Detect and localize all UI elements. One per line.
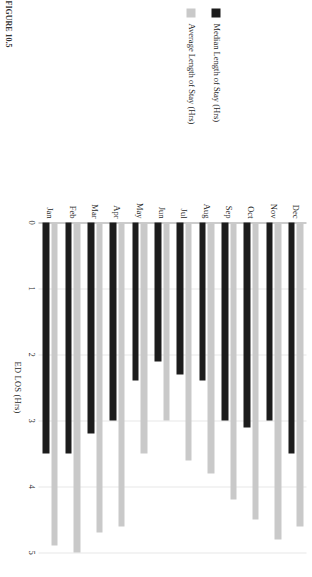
tick-label: 1: [26, 286, 36, 290]
category-label: Mar: [83, 196, 105, 222]
value-axis-title: ED LOS (Hrs): [12, 222, 22, 552]
category-label: Jan: [38, 196, 60, 222]
chart-figure: Median Length of Stay (Hrs) Average Leng…: [0, 0, 312, 577]
category-label: Dec: [284, 196, 306, 222]
category-label: Aug: [194, 196, 216, 222]
bar-group: [127, 222, 149, 552]
category-label: Nov: [261, 196, 283, 222]
bar-average: [230, 222, 237, 499]
tick-label: 2: [26, 352, 36, 356]
bar-average: [185, 222, 192, 460]
plot-area: JanFebMarAprMayJunJulAugSepOctNovDec 012…: [6, 196, 306, 568]
bar-group: [83, 222, 105, 552]
bar-group: [217, 222, 239, 552]
category-label: Feb: [60, 196, 82, 222]
bar-median: [42, 222, 49, 453]
bar-average: [207, 222, 214, 473]
bar-median: [65, 222, 72, 453]
bar-median: [199, 222, 206, 380]
category-label: Sep: [217, 196, 239, 222]
legend-item-median: Median Length of Stay (Hrs): [211, 8, 220, 158]
category-label: Jun: [150, 196, 172, 222]
legend-item-average: Average Length of Stay (Hrs): [186, 8, 195, 158]
bar-average: [140, 222, 147, 453]
rotated-figure-wrapper: Median Length of Stay (Hrs) Average Leng…: [0, 0, 312, 577]
chart-legend: Median Length of Stay (Hrs) Average Leng…: [170, 8, 220, 158]
bar-group: [150, 222, 172, 552]
bar-median: [221, 222, 228, 420]
bar-median: [109, 222, 116, 420]
bar-group: [38, 222, 60, 552]
bar-average: [51, 222, 58, 545]
bar-average: [118, 222, 125, 526]
bar-median: [154, 222, 161, 361]
category-label: Jul: [172, 196, 194, 222]
category-label: Oct: [239, 196, 261, 222]
bar-median: [288, 222, 295, 453]
tick-label: 3: [26, 418, 36, 422]
bar-average: [73, 222, 80, 552]
bar-average: [252, 222, 259, 519]
category-label: May: [127, 196, 149, 222]
bar-median: [176, 222, 183, 374]
tick-label: 5: [26, 550, 36, 554]
bar-group: [60, 222, 82, 552]
category-label: Apr: [105, 196, 127, 222]
bar-average: [163, 222, 170, 420]
bar-group: [172, 222, 194, 552]
bar-group: [284, 222, 306, 552]
bar-median: [243, 222, 250, 427]
legend-swatch-icon: [211, 8, 220, 17]
bar-average: [96, 222, 103, 532]
legend-swatch-icon: [186, 8, 195, 17]
figure-caption: FIGURE 10.5: [3, 0, 12, 47]
legend-label-median: Median Length of Stay (Hrs): [211, 23, 220, 122]
bar-group: [105, 222, 127, 552]
figure-page: Median Length of Stay (Hrs) Average Leng…: [0, 0, 312, 577]
bar-group: [194, 222, 216, 552]
bars-container: [38, 222, 306, 552]
tick-label: 4: [26, 484, 36, 488]
bar-median: [266, 222, 273, 420]
legend-label-average: Average Length of Stay (Hrs): [186, 23, 195, 124]
bar-group: [239, 222, 261, 552]
category-axis-labels: JanFebMarAprMayJunJulAugSepOctNovDec: [38, 196, 306, 222]
bar-average: [297, 222, 304, 526]
value-axis-ticks: 012345: [22, 222, 38, 552]
bar-median: [87, 222, 94, 433]
bar-median: [132, 222, 139, 380]
tick-label: 0: [26, 220, 36, 224]
bar-average: [274, 222, 281, 539]
bar-group: [261, 222, 283, 552]
